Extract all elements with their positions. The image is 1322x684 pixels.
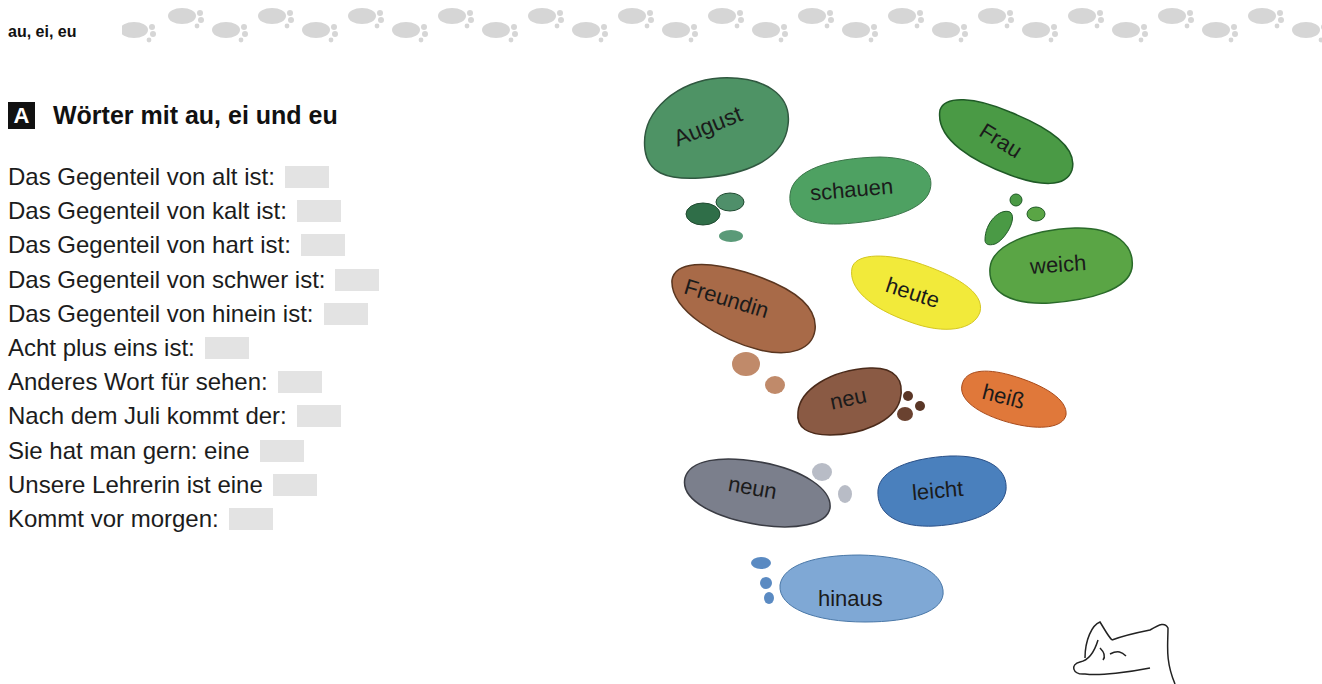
word-footprints-illustration	[0, 0, 1322, 684]
footprint-frau-icon	[940, 100, 1073, 245]
word-leicht: leicht	[911, 476, 964, 506]
word-weich: weich	[1029, 250, 1087, 280]
footprint-august-icon	[645, 78, 789, 242]
word-hinaus: hinaus	[818, 586, 883, 612]
wolf-head-icon	[1074, 622, 1175, 684]
